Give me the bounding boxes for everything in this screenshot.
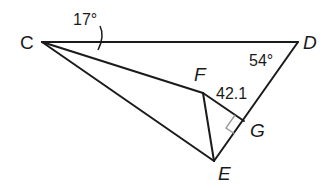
right-angle-mark: [226, 115, 235, 134]
point-label-d: D: [303, 32, 317, 53]
triangle-diagram: C D F G E 17° 54° 42.1: [0, 0, 336, 188]
segment-cf: [42, 42, 203, 93]
segment-ce: [42, 42, 214, 161]
length-label-fg: 42.1: [216, 85, 247, 102]
angle-arc-c: [98, 26, 102, 50]
segment-fe: [203, 93, 214, 161]
angle-label-d: 54°: [249, 52, 273, 69]
angle-label-c: 17°: [73, 11, 97, 28]
point-label-g: G: [250, 120, 265, 141]
point-label-f: F: [194, 64, 207, 85]
point-label-e: E: [218, 163, 231, 184]
point-label-c: C: [20, 32, 34, 53]
